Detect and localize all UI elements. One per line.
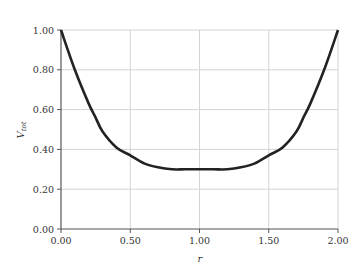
- x-tick-label: 2.00: [327, 235, 348, 246]
- x-tick-label: 0.00: [50, 235, 71, 246]
- y-tick-label: 0.80: [33, 64, 54, 75]
- x-tick-label: 0.50: [120, 235, 141, 246]
- y-tick-label: 0.20: [33, 184, 54, 195]
- tick-labels: 0.000.200.400.600.801.000.000.501.001.50…: [33, 25, 349, 247]
- chart: 0.000.200.400.600.801.000.000.501.001.50…: [0, 0, 361, 274]
- y-tick-label: 0.60: [33, 104, 54, 115]
- y-tick-label: 0.40: [33, 144, 54, 155]
- x-tick-label: 1.00: [189, 235, 210, 246]
- y-tick-label: 0.00: [33, 224, 54, 235]
- y-axis-label: Vtot: [15, 121, 28, 138]
- x-tick-label: 1.50: [258, 235, 279, 246]
- y-tick-label: 1.00: [33, 25, 54, 36]
- x-axis-label: r: [198, 253, 204, 264]
